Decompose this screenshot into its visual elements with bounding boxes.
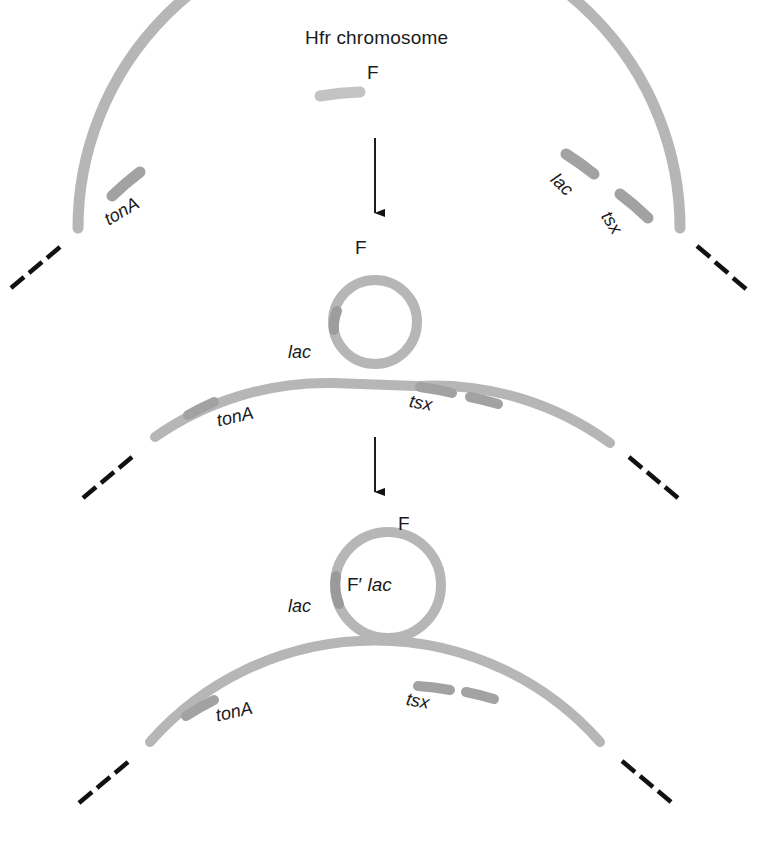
- figure-title: Hfr chromosome: [305, 28, 448, 47]
- bottom-gene-lac: lac: [288, 597, 311, 615]
- diagram-canvas: [0, 0, 758, 852]
- middle-gene-lac: lac: [288, 343, 311, 361]
- top-f-label: F: [367, 63, 379, 82]
- bottom-left-dashes: [79, 762, 128, 803]
- top-left-dashes: [11, 247, 60, 288]
- middle-right-dashes: [629, 457, 678, 498]
- f-prime-plasmid-label: F′ lac: [347, 575, 392, 594]
- middle-f-label: F: [355, 238, 367, 257]
- bottom-f-label: F: [398, 514, 410, 533]
- middle-left-dashes: [83, 457, 132, 498]
- bottom-right-dashes: [622, 761, 671, 802]
- middle-f-loop: [333, 280, 417, 364]
- middle-gene-tsx: tsx: [408, 392, 434, 414]
- bottom-gene-tsx: tsx: [405, 690, 431, 712]
- bottom-chromosome-arc: [150, 640, 600, 742]
- f-prime-gene: lac: [367, 574, 391, 595]
- top-right-dashes: [697, 246, 746, 289]
- f-prime-prefix: F′: [347, 574, 362, 595]
- hfr-excision-figure: Hfr chromosome F tonA lac tsx F lac tonA…: [0, 0, 758, 852]
